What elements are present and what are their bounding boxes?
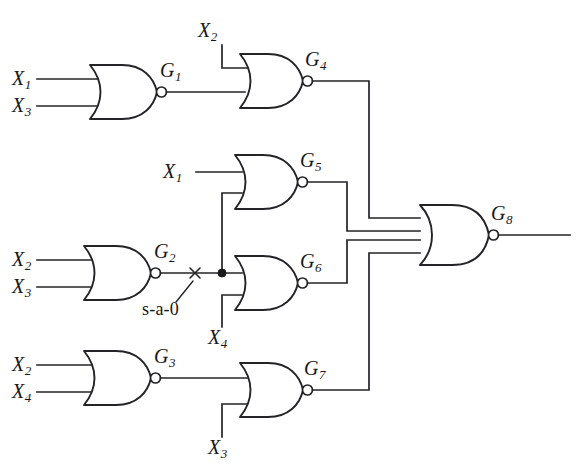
gate-g5-body: [235, 155, 298, 209]
gate-g3-inversion-bubble: [151, 373, 161, 383]
logic-circuit-figure: X1 X3 X2 X1 X2 X3 X4 X2 X4 X3 G1 G4 G5 G…: [0, 0, 584, 470]
gate-g6: [235, 256, 308, 310]
gate-g8-body: [420, 205, 489, 265]
wire-x2-to-g4: [222, 45, 247, 68]
input-label-x3-g7: X3: [208, 437, 227, 457]
wire-g4-to-g8: [313, 81, 421, 218]
gate-g2: [84, 246, 161, 300]
gate-label-g4: G4: [305, 49, 326, 69]
gate-g2-body: [84, 246, 151, 300]
input-label-x2-g4: X2: [198, 20, 217, 40]
gate-label-g2: G2: [154, 241, 175, 261]
wire-g5-to-g8: [308, 182, 421, 231]
gate-g3: [84, 351, 161, 405]
gate-g5: [235, 155, 308, 209]
gate-g6-inversion-bubble: [298, 278, 308, 288]
gate-g1-inversion-bubble: [157, 87, 167, 97]
gate-g7: [240, 363, 313, 417]
wire-x4-to-g6: [222, 295, 242, 327]
gate-g4-inversion-bubble: [303, 76, 313, 86]
gate-g7-inversion-bubble: [303, 385, 313, 395]
gate-label-g1: G1: [160, 60, 181, 80]
gate-label-g3: G3: [154, 346, 175, 366]
gate-g8: [420, 205, 499, 265]
input-label-x3-g1: X3: [12, 95, 31, 115]
gate-g6-body: [235, 256, 298, 310]
gate-g2-inversion-bubble: [151, 268, 161, 278]
gate-label-g8: G8: [491, 203, 512, 223]
circuit-schematic-svg: [0, 0, 584, 470]
gate-g4-body: [240, 54, 303, 108]
gate-g1-body: [90, 65, 157, 119]
wire-g7-to-g8: [313, 253, 421, 390]
gate-g4: [240, 54, 313, 108]
gate-g8-inversion-bubble: [489, 230, 499, 240]
net-junction-dot-g2: [218, 269, 226, 277]
input-label-x2-g2: X2: [12, 249, 31, 269]
gate-label-g5: G5: [300, 150, 321, 170]
wire-x3-to-g7: [222, 404, 247, 437]
gate-g1: [90, 65, 167, 119]
input-label-x4-g3: X4: [12, 381, 31, 401]
input-label-x4-g6: X4: [208, 327, 227, 347]
stuck-at-0-fault-label: s-a-0: [142, 300, 179, 318]
input-label-x3-g2: X3: [12, 276, 31, 296]
gate-g3-body: [84, 351, 151, 405]
input-label-x1-g1: X1: [12, 68, 31, 88]
gate-g7-body: [240, 363, 303, 417]
input-label-x1-g5: X1: [163, 161, 182, 181]
input-label-x2-g3: X2: [12, 354, 31, 374]
gate-label-g6: G6: [300, 251, 321, 271]
wire-g6-to-g8: [308, 240, 421, 283]
gate-label-g7: G7: [304, 358, 325, 378]
gate-g5-inversion-bubble: [298, 177, 308, 187]
